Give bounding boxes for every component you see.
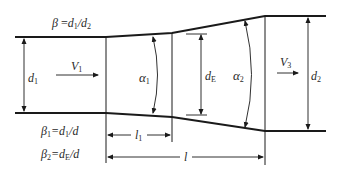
d2-label: d2 — [311, 69, 321, 84]
alpha1-label: α1 — [139, 70, 150, 86]
alpha2-angle-arc — [245, 21, 252, 127]
alpha1-angle-arc — [153, 37, 158, 113]
beta-ratio-label: β =d1/d2 — [51, 16, 91, 31]
v3-label: V3 — [280, 55, 291, 70]
alpha2-label: α2 — [233, 68, 244, 84]
l1-label: l1 — [135, 128, 142, 143]
beta2-ratio-label: β2=dE/d — [40, 147, 80, 162]
beta1-ratio-label: β1=d1/d — [40, 124, 79, 139]
diffuser-diagram: β =d1/d2 d1 V1 α1 dE α2 V3 d2 l1 l β1=d1… — [0, 0, 338, 174]
diagram-svg: β =d1/d2 d1 V1 α1 dE α2 V3 d2 l1 l β1=d1… — [0, 0, 338, 174]
de-label: dE — [205, 69, 216, 84]
d1-label: d1 — [28, 71, 38, 86]
v1-label: V1 — [71, 59, 82, 74]
l-label: l — [184, 150, 188, 164]
